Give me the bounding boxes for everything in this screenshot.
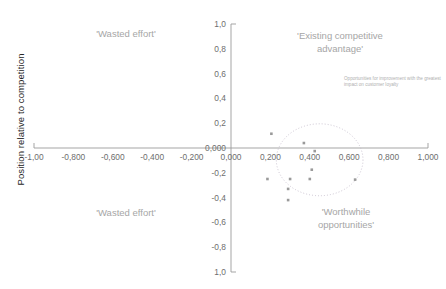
y-tick-label: -0,6 — [204, 217, 226, 227]
y-tick-label: 1,0 — [204, 19, 226, 29]
y-tick-label: 0,000 — [186, 143, 226, 153]
y-tick-label: -0,2 — [204, 168, 226, 178]
y-tick-label: 0,4 — [204, 93, 226, 103]
x-tick-label: -1,00 — [24, 152, 43, 162]
scatter-chart: Position relative to competition 'Wasted… — [0, 0, 446, 289]
x-tick-label: 0,200 — [260, 152, 281, 162]
quadrant-label-wasted-effort-bottom-left: 'Wasted effort' — [58, 207, 194, 220]
x-tick-label: 0,800 — [378, 152, 399, 162]
x-tick-label: 1,000 — [418, 152, 439, 162]
data-point — [310, 168, 313, 171]
y-tick-label: -0,4 — [204, 193, 226, 203]
y-tick-label: 0,2 — [204, 118, 226, 128]
x-tick-label: -0,600 — [101, 152, 125, 162]
quadrant-label-existing-competitive-advantage: 'Existing competitive advantage' — [272, 30, 408, 55]
data-point — [266, 178, 269, 181]
y-tick-label: 0,6 — [204, 69, 226, 79]
x-tick-label: -0,200 — [180, 152, 204, 162]
data-point — [270, 132, 273, 135]
quadrant-label-worthwhile-opportunities: 'Worthwhile opportunities' — [284, 206, 408, 231]
x-tick-label: 0,400 — [299, 152, 320, 162]
y-tick-label: 1,0 — [204, 267, 226, 277]
x-tick-label: -0,400 — [140, 152, 164, 162]
data-point — [287, 188, 290, 191]
x-tick-label: 0,000 — [221, 152, 242, 162]
x-tick-label: 0,600 — [339, 152, 360, 162]
data-point — [287, 199, 290, 202]
annotation-opportunities-note: Opportunities for improvement with the g… — [344, 76, 444, 88]
data-point — [309, 178, 312, 181]
data-point — [289, 178, 292, 181]
axes-group — [34, 24, 428, 272]
y-tick-label: -0,8 — [204, 242, 226, 252]
x-tick-label: -0,800 — [62, 152, 86, 162]
data-point — [303, 142, 306, 145]
quadrant-label-wasted-effort-top-left: 'Wasted effort' — [58, 28, 194, 41]
data-point — [354, 178, 357, 181]
y-axis-title: Position relative to competition — [15, 20, 26, 220]
data-points-group — [266, 132, 356, 201]
y-tick-label: 0,8 — [204, 44, 226, 54]
